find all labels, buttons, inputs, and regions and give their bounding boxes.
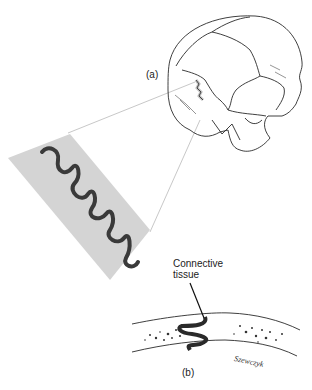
label-b: (b) bbox=[182, 367, 194, 378]
diagram-canvas bbox=[0, 0, 312, 390]
cross-section bbox=[132, 313, 300, 356]
label-connective: Connective bbox=[173, 258, 223, 269]
skull-illustration bbox=[168, 16, 302, 151]
leader-line bbox=[190, 283, 204, 318]
label-tissue: tissue bbox=[173, 269, 199, 280]
label-a: (a) bbox=[146, 69, 158, 80]
inset-panel bbox=[8, 134, 150, 280]
connective-tissue-fold bbox=[179, 317, 206, 350]
